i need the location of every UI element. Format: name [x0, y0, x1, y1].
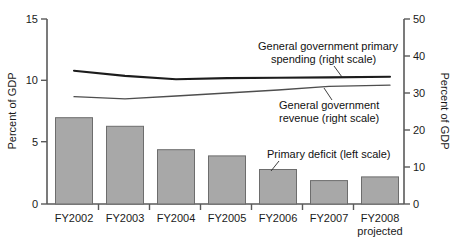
- left-axis-ticks: 15 10 5 0: [26, 13, 47, 210]
- bar-fy2002: [56, 118, 93, 204]
- spending-annotation-line2: spending (right scale): [271, 53, 376, 65]
- revenue-annotation-line2: revenue (right scale): [279, 112, 379, 124]
- line-primary-spending: [74, 71, 390, 80]
- x-axis-ticks: [99, 204, 354, 210]
- bar-fy2006: [260, 170, 297, 205]
- bar-fy2007: [311, 181, 348, 204]
- revenue-annotation-line1: General government: [279, 99, 379, 111]
- right-tick-label-20: 20: [413, 124, 425, 136]
- left-tick-label-10: 10: [26, 74, 38, 86]
- right-axis-ticks: 50 40 30 20 10 0: [404, 13, 425, 210]
- category-sublabel-fy2008: projected: [357, 225, 402, 237]
- bar-fy2005: [209, 156, 246, 204]
- category-label-fy2004: FY2004: [157, 212, 196, 224]
- deficit-annotation: Primary deficit (left scale): [267, 148, 390, 171]
- bar-fy2004: [158, 150, 195, 204]
- revenue-annotation: General government revenue (right scale): [279, 88, 379, 124]
- category-label-fy2006: FY2006: [259, 212, 298, 224]
- category-label-fy2003: FY2003: [106, 212, 145, 224]
- left-tick-label-5: 5: [32, 136, 38, 148]
- category-label-fy2005: FY2005: [208, 212, 247, 224]
- left-tick-label-15: 15: [26, 13, 38, 25]
- category-label-fy2002: FY2002: [55, 212, 94, 224]
- spending-annotation-leader: [334, 66, 342, 77]
- category-label-fy2007: FY2007: [310, 212, 349, 224]
- category-label-fy2008: FY2008: [361, 212, 400, 224]
- right-tick-label-40: 40: [413, 50, 425, 62]
- bar-series-primary-deficit: [56, 118, 399, 204]
- x-axis-category-labels: FY2002 FY2003 FY2004 FY2005 FY2006 FY200…: [55, 212, 403, 237]
- right-tick-label-50: 50: [413, 13, 425, 25]
- right-tick-label-10: 10: [413, 161, 425, 173]
- right-tick-label-30: 30: [413, 87, 425, 99]
- left-axis-title: Percent of GDP: [6, 72, 18, 149]
- right-tick-label-0: 0: [413, 198, 419, 210]
- line-government-revenue: [74, 85, 390, 99]
- spending-annotation-line1: General government primary: [258, 40, 399, 52]
- bar-fy2003: [107, 126, 144, 204]
- right-axis-title: Percent of GDP: [439, 72, 451, 149]
- deficit-annotation-line1: Primary deficit (left scale): [267, 148, 390, 160]
- chart-container: 15 10 5 0 50 40 30 20 10 0 Percent of GD…: [0, 0, 451, 252]
- left-tick-label-0: 0: [32, 198, 38, 210]
- spending-annotation: General government primary spending (rig…: [258, 40, 399, 77]
- bar-fy2008: [362, 177, 399, 204]
- economic-indicators-chart: 15 10 5 0 50 40 30 20 10 0 Percent of GD…: [0, 0, 451, 252]
